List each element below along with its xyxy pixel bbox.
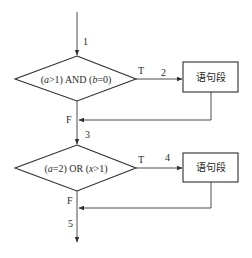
false-label-2: F — [67, 195, 73, 206]
process-1-text: 语句段 — [196, 71, 226, 83]
edge-label-5: 5 — [68, 218, 73, 229]
edge-stmt2-return — [79, 182, 211, 208]
decision-2-text: (a=2) OR (x>1) — [45, 163, 108, 175]
decision-1-text: (a>1) AND (b=0) — [41, 74, 112, 86]
edge-stmt1-return — [79, 92, 211, 120]
edge-label-2: 2 — [161, 67, 166, 78]
edge-label-3: 3 — [85, 129, 90, 140]
process-2-text: 语句段 — [196, 161, 226, 173]
edge-label-4: 4 — [165, 152, 170, 163]
flowchart: 1 (a>1) AND (b=0) T 2 语句段 F 3 (a=2) OR (… — [0, 0, 252, 258]
true-label-2: T — [138, 154, 144, 165]
false-label-1: F — [66, 114, 72, 125]
edge-label-1: 1 — [83, 36, 88, 47]
true-label-1: T — [138, 65, 144, 76]
